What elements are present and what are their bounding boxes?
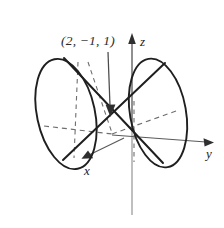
z-axis-label: z	[139, 34, 145, 49]
figure-canvas: (2, −1, 1) z y x	[0, 0, 224, 228]
left-ellipse-minor-axis-dashed	[74, 62, 78, 158]
arrow-up-icon	[128, 33, 136, 44]
x-axis-positive-dashed-segment	[112, 111, 176, 134]
y-axis-label: y	[204, 146, 212, 161]
cone-generator-lowerleft-to-upperright	[63, 63, 165, 160]
x-axis-label: x	[83, 163, 90, 178]
y-axis-negative-dashed-segment	[44, 126, 112, 134]
double-cone-diagram: (2, −1, 1) z y x	[0, 0, 224, 228]
point-label: (2, −1, 1)	[61, 33, 115, 48]
y-axis-positive-segment	[112, 135, 206, 142]
annotation-leader-line	[108, 52, 110, 106]
